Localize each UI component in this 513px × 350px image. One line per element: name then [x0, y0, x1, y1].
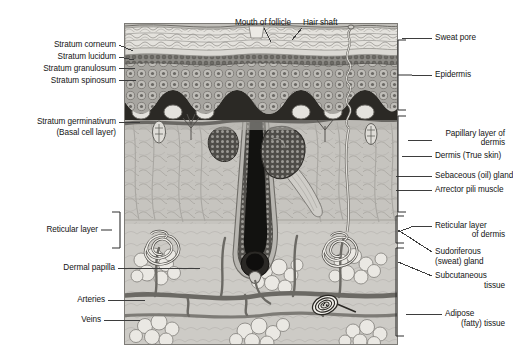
label-stratum-corneum: Stratum corneum: [4, 40, 116, 50]
label-hair-shaft: Hair shaft: [303, 18, 393, 28]
skin-cross-section-figure: [124, 23, 398, 345]
label-subcutaneous-tissue-line1: Subcutaneous: [435, 271, 509, 281]
label-subcutaneous-tissue-line2: tissue: [421, 281, 505, 291]
label-dermal-papilla: Dermal papilla: [4, 263, 115, 273]
label-basal-cell-layer: (Basal cell layer): [4, 128, 116, 138]
label-sudoriferous-gland-line1: Sudoriferous: [435, 247, 509, 257]
label-stratum-germinativum: Stratum germinativum: [4, 117, 116, 127]
label-reticular-layer: Reticular layer: [4, 225, 98, 235]
label-veins: Veins: [4, 315, 101, 325]
label-adipose-tissue-line1: Adipose: [445, 309, 509, 319]
figure-artwork: [125, 24, 398, 345]
label-adipose-tissue-line2: (fatty) tissue: [421, 319, 505, 329]
label-stratum-spinosum: Stratum spinosum: [4, 76, 116, 86]
label-stratum-lucidum: Stratum lucidum: [4, 52, 116, 62]
label-arteries: Arteries: [4, 295, 105, 305]
label-sweat-pore: Sweat pore: [435, 33, 507, 43]
label-stratum-granulosum: Stratum granulosum: [4, 64, 116, 74]
label-epidermis: Epidermis: [435, 70, 507, 80]
label-dermis-true-skin: Dermis (True skin): [435, 151, 511, 161]
label-arrector-pili-muscle: Arrector pili muscle: [435, 185, 511, 195]
label-reticular-layer-dermis-line2: of dermis: [421, 230, 505, 240]
label-sebaceous-gland: Sebaceous (oil) gland: [435, 171, 511, 181]
label-sudoriferous-gland-line2: (sweat) gland: [435, 257, 509, 267]
label-papillary-layer-line2: dermis: [417, 138, 505, 148]
